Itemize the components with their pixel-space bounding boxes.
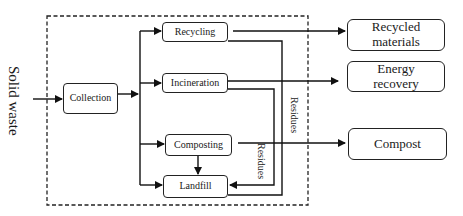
- output-recycled-materials: Recycled materials: [347, 19, 445, 51]
- node-composting-label: Composting: [174, 140, 223, 151]
- node-landfill: Landfill: [163, 175, 228, 198]
- node-recycling: Recycling: [162, 22, 228, 42]
- input-label-solid-waste: Solid waste: [5, 66, 22, 136]
- output-compost: Compost: [348, 128, 447, 160]
- node-collection: Collection: [63, 83, 118, 114]
- edge-label-residues-inner: Residues: [256, 143, 266, 179]
- node-incineration: Incineration: [162, 73, 228, 93]
- output-recycled-line2: materials: [372, 35, 420, 50]
- edge-incineration-residues: [228, 89, 274, 185]
- output-recycled-line1: Recycled: [372, 20, 420, 35]
- output-energy-line2: recovery: [373, 77, 418, 92]
- node-landfill-label: Landfill: [179, 181, 211, 192]
- output-energy-recovery: Energy recovery: [347, 61, 445, 92]
- node-composting: Composting: [165, 134, 232, 156]
- node-incineration-label: Incineration: [171, 78, 219, 89]
- node-collection-label: Collection: [70, 93, 112, 104]
- output-energy-line1: Energy: [377, 62, 414, 77]
- node-recycling-label: Recycling: [175, 27, 216, 38]
- output-compost-label: Compost: [374, 137, 421, 152]
- edge-label-residues-outer: Residues: [289, 97, 299, 133]
